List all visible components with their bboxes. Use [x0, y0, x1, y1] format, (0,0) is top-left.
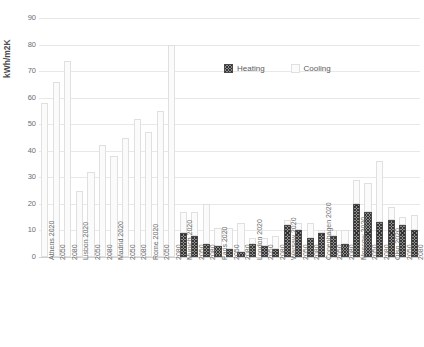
x-axis-label: 2050	[59, 244, 66, 260]
y-tick-label-30: 30	[14, 173, 36, 181]
x-axis-label: Moscow 2020	[360, 217, 367, 260]
bar-column[interactable]	[64, 18, 71, 257]
bar-column[interactable]	[353, 18, 360, 257]
x-axis-label: 2050	[163, 244, 170, 260]
bar-column[interactable]	[145, 18, 152, 257]
x-axis-label: 2080	[106, 244, 113, 260]
x-axis-label: Munich 2020	[186, 220, 193, 260]
x-axis-label: 2050	[198, 244, 205, 260]
y-tick-label-10: 10	[14, 226, 36, 234]
y-tick-label-50: 50	[14, 120, 36, 128]
bar-column[interactable]	[226, 18, 233, 257]
x-axis-label: 2050	[371, 244, 378, 260]
chart-container: kWh/m2K 0102030405060708090 Athens 20202…	[0, 0, 424, 347]
bar-column[interactable]	[134, 18, 141, 257]
x-axis-label: 2050	[406, 244, 413, 260]
bar-segment-cooling[interactable]	[64, 61, 71, 258]
x-axis-label: 2050	[302, 244, 309, 260]
bar-segment-cooling[interactable]	[364, 183, 371, 212]
x-axis-label: 2080	[383, 244, 390, 260]
bar-column[interactable]	[168, 18, 175, 257]
bar-segment-cooling[interactable]	[353, 180, 360, 204]
x-axis-label: Madrid 2020	[117, 221, 124, 260]
legend-swatch-heating-icon	[224, 64, 233, 73]
x-axis-label: Athens 2020	[48, 221, 55, 260]
bar-column[interactable]	[399, 18, 406, 257]
chart-title	[60, 0, 380, 2]
bar-column[interactable]	[272, 18, 279, 257]
y-tick-label-20: 20	[14, 200, 36, 208]
bar-column[interactable]	[203, 18, 210, 257]
y-tick-label-0: 0	[14, 253, 36, 261]
y-tick-label-80: 80	[14, 41, 36, 49]
x-axis-label: 2080	[313, 244, 320, 260]
y-axis-title: kWh/m2K	[2, 39, 12, 78]
bar-segment-cooling[interactable]	[388, 207, 395, 220]
bar-column[interactable]	[237, 18, 244, 257]
x-axis-label: Copenhagen 2020	[325, 202, 332, 260]
x-axis-label: 2080	[417, 244, 424, 260]
legend-label: Heating	[237, 64, 265, 73]
x-axis-label: 2080	[209, 244, 216, 260]
x-axis-label: 2050	[336, 244, 343, 260]
x-axis-label: 2050	[94, 244, 101, 260]
legend-swatch-cooling-icon	[291, 64, 300, 73]
y-tick-label-90: 90	[14, 14, 36, 22]
bar-column[interactable]	[307, 18, 314, 257]
bar-column[interactable]	[341, 18, 348, 257]
x-axis-label: 2080	[279, 244, 286, 260]
bar-segment-cooling[interactable]	[168, 45, 175, 257]
bar-segment-cooling[interactable]	[399, 217, 406, 225]
x-axis-label: Warsaw 2020	[290, 217, 297, 260]
x-axis-label: Paris 2020	[221, 227, 228, 260]
bar-segment-cooling[interactable]	[341, 230, 348, 243]
y-tick-label-60: 60	[14, 94, 36, 102]
legend-item-heating[interactable]: Heating	[224, 64, 265, 73]
x-axis-label: Lisbon 2020	[82, 222, 89, 260]
bar-column[interactable]	[157, 18, 164, 257]
bar-column[interactable]	[376, 18, 383, 257]
x-axis-label: 2080	[244, 244, 251, 260]
x-axis-label: London 2020	[256, 219, 263, 260]
x-axis-label: 2080	[71, 244, 78, 260]
x-axis-label: 2050	[267, 244, 274, 260]
bar-segment-cooling[interactable]	[203, 204, 210, 244]
bar-segment-cooling[interactable]	[134, 119, 141, 257]
chart-legend: HeatingCooling	[224, 64, 331, 73]
bar-column[interactable]	[388, 18, 395, 257]
bar-segment-cooling[interactable]	[376, 161, 383, 222]
x-axis-label: 2080	[140, 244, 147, 260]
bar-column[interactable]	[214, 18, 221, 257]
y-axis-ticks: 0102030405060708090	[12, 18, 36, 257]
x-axis-label: 2050	[233, 244, 240, 260]
legend-item-cooling[interactable]: Cooling	[291, 64, 331, 73]
x-axis-label: 2080	[175, 244, 182, 260]
bar-column[interactable]	[99, 18, 106, 257]
x-axis-label: 2080	[348, 244, 355, 260]
y-tick-label-70: 70	[14, 67, 36, 75]
x-axis-label: Olso 2020	[394, 228, 401, 260]
bar-segment-cooling[interactable]	[411, 215, 418, 231]
x-axis-labels: Athens 202020502080Lisbon 202020502080Ma…	[39, 258, 420, 347]
bar-segment-cooling[interactable]	[99, 145, 106, 257]
bar-segment-cooling[interactable]	[307, 223, 314, 239]
x-axis-label: 2050	[129, 244, 136, 260]
bar-column[interactable]	[411, 18, 418, 257]
y-tick-label-40: 40	[14, 147, 36, 155]
x-axis-label: Rome 2020	[152, 224, 159, 260]
legend-label: Cooling	[304, 64, 331, 73]
